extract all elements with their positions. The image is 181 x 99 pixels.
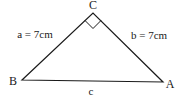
right-triangle-diagram: C B A a = 7cm b = 7cm c xyxy=(0,0,181,99)
side-label-b: b = 7cm xyxy=(131,29,168,41)
vertex-label-b: B xyxy=(9,74,17,88)
side-label-c: c xyxy=(89,85,94,97)
right-angle-marker xyxy=(85,21,101,29)
vertex-label-c: C xyxy=(89,0,97,12)
vertex-label-a: A xyxy=(166,77,175,91)
triangle-abc xyxy=(22,13,163,82)
side-label-a: a = 7cm xyxy=(17,28,53,40)
